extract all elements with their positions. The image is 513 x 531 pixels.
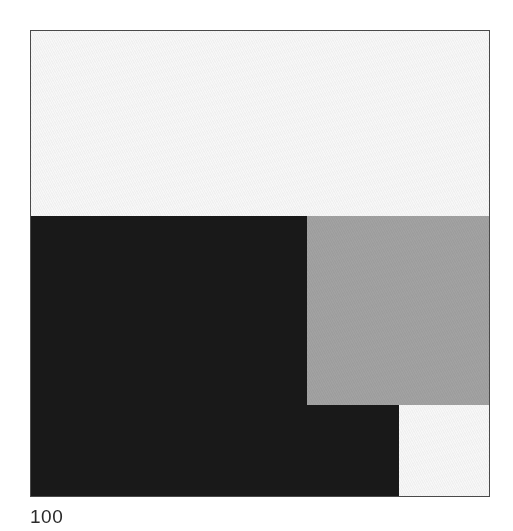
- block-lower-middle-black-block: [307, 405, 400, 496]
- block-left-black-block: [31, 216, 307, 496]
- figure-root: 100: [0, 0, 513, 531]
- plot-frame: [30, 30, 490, 497]
- block-right-gray-block: [307, 216, 489, 405]
- scale-label: 100: [30, 506, 63, 528]
- block-top-white-band: [31, 31, 489, 216]
- block-bottom-right-white-block: [399, 405, 489, 496]
